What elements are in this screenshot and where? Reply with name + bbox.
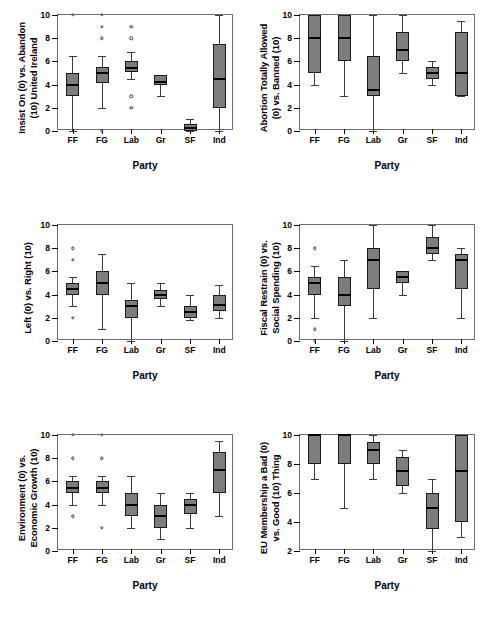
y-tick-label: 4 xyxy=(287,517,292,527)
y-tick-label: 0 xyxy=(45,336,50,346)
x-tick-label-ind: Ind xyxy=(455,135,468,145)
x-tick-mark xyxy=(219,339,220,344)
x-tick-label-lab: Lab xyxy=(366,135,381,145)
y-tick-label: 10 xyxy=(283,10,292,20)
box-glyph-ind xyxy=(58,15,232,129)
x-tick-label-ff: FF xyxy=(67,555,77,565)
panel-bottom-right: EU Membership a Bad (0)vs. Good (10) Thi… xyxy=(242,420,483,630)
x-tick-mark xyxy=(461,129,462,134)
whisker-cap-upper xyxy=(215,285,223,286)
y-tick-label: 2 xyxy=(287,313,292,323)
whisker-cap-lower xyxy=(215,516,223,517)
y-axis-title-line: Insist On (0) vs. Abandon xyxy=(16,8,28,148)
whisker-cap-lower xyxy=(340,341,348,342)
box-glyph-ind xyxy=(300,15,474,129)
x-tick-mark xyxy=(131,129,132,134)
y-tick-label: 8 xyxy=(287,243,292,253)
x-tick-label-fg: FG xyxy=(96,135,108,145)
panel-middle-left: Left (0) vs. Right (10)0246810FFFGLabGrS… xyxy=(0,210,241,420)
y-tick-label: 6 xyxy=(287,56,292,66)
y-tick-label: 0 xyxy=(287,126,292,136)
y-tick-mark xyxy=(294,131,300,132)
y-tick-label: 4 xyxy=(45,80,50,90)
x-tick-label-ind: Ind xyxy=(455,345,468,355)
median-line xyxy=(455,470,468,472)
box-iqr xyxy=(455,435,468,522)
x-tick-mark xyxy=(315,129,316,134)
whisker-cap-lower xyxy=(69,131,77,132)
panel-top-left: Insist On (0) vs. Abandon(10) United Ire… xyxy=(0,0,241,210)
y-tick-label: 4 xyxy=(45,500,50,510)
box-iqr xyxy=(213,452,226,493)
x-tick-mark xyxy=(461,339,462,344)
x-axis-title: Party xyxy=(299,580,475,591)
x-tick-mark xyxy=(432,339,433,344)
y-tick-mark xyxy=(294,341,300,342)
x-tick-label-sf: SF xyxy=(185,345,196,355)
x-tick-label-ff: FF xyxy=(67,135,77,145)
x-tick-mark xyxy=(461,549,462,554)
y-tick-label: 6 xyxy=(45,476,50,486)
x-tick-mark xyxy=(373,339,374,344)
x-tick-label-gr: Gr xyxy=(398,345,408,355)
x-tick-label-ff: FF xyxy=(309,345,319,355)
x-tick-label-sf: SF xyxy=(427,135,438,145)
y-axis-title-line: Economic Growth (10) xyxy=(28,428,40,568)
y-tick-label: 10 xyxy=(283,220,292,230)
x-tick-label-gr: Gr xyxy=(156,555,166,565)
panel-top-right: Abortion Totally Allowed(0) vs. Banned (… xyxy=(242,0,483,210)
x-tick-mark xyxy=(403,549,404,554)
y-tick-label: 0 xyxy=(287,336,292,346)
x-tick-mark xyxy=(219,549,220,554)
y-tick-label: 8 xyxy=(287,459,292,469)
y-tick-label: 6 xyxy=(45,56,50,66)
x-tick-label-sf: SF xyxy=(185,135,196,145)
whisker-cap-lower xyxy=(428,551,436,552)
whisker-cap-upper xyxy=(215,15,223,16)
x-tick-mark xyxy=(403,129,404,134)
y-tick-label: 8 xyxy=(287,33,292,43)
y-tick-label: 10 xyxy=(41,220,50,230)
whisker-cap-lower xyxy=(457,318,465,319)
y-tick-label: 10 xyxy=(41,10,50,20)
x-tick-mark xyxy=(190,549,191,554)
y-tick-label: 8 xyxy=(45,453,50,463)
panel-bottom-left: Environment (0) vs.Economic Growth (10)0… xyxy=(0,420,241,630)
x-tick-mark xyxy=(344,129,345,134)
whisker-cap-lower xyxy=(457,537,465,538)
plot-area: 0246810FFFGLabGrSFInd xyxy=(299,224,475,340)
y-axis-title-line: (0) vs. Banned (10) xyxy=(270,8,282,148)
x-tick-label-fg: FG xyxy=(338,135,350,145)
x-tick-label-ind: Ind xyxy=(213,555,226,565)
x-tick-label-fg: FG xyxy=(96,555,108,565)
x-tick-label-fg: FG xyxy=(338,345,350,355)
y-tick-label: 2 xyxy=(287,546,292,556)
median-line xyxy=(455,72,468,74)
y-tick-mark xyxy=(52,341,58,342)
median-line xyxy=(213,304,226,306)
y-axis-title: Fiscal Restrain (0) vs.Social Spending (… xyxy=(258,218,284,358)
y-axis-title: Insist On (0) vs. Abandon(10) United Ire… xyxy=(16,8,42,148)
x-tick-label-ff: FF xyxy=(309,135,319,145)
x-tick-label-fg: FG xyxy=(96,345,108,355)
x-tick-label-sf: SF xyxy=(185,555,196,565)
x-tick-mark xyxy=(73,549,74,554)
outlier-point xyxy=(100,129,103,132)
y-tick-label: 2 xyxy=(45,103,50,113)
median-line xyxy=(455,259,468,261)
y-tick-mark xyxy=(52,131,58,132)
x-tick-mark xyxy=(344,549,345,554)
y-tick-label: 4 xyxy=(287,290,292,300)
x-tick-label-ind: Ind xyxy=(213,345,226,355)
y-axis-title-line: EU Membership a Bad (0) xyxy=(258,428,270,568)
y-tick-label: 0 xyxy=(45,126,50,136)
y-axis-title: Environment (0) vs.Economic Growth (10) xyxy=(16,428,42,568)
plot-area: 246810FFFGLabGrSFInd xyxy=(299,434,475,550)
y-tick-label: 4 xyxy=(287,80,292,90)
y-axis-title-line: (10) United Ireland xyxy=(28,8,40,148)
x-tick-label-sf: SF xyxy=(427,345,438,355)
x-tick-mark xyxy=(432,129,433,134)
whisker-cap-lower xyxy=(215,318,223,319)
x-tick-label-lab: Lab xyxy=(124,135,139,145)
x-tick-mark xyxy=(102,549,103,554)
